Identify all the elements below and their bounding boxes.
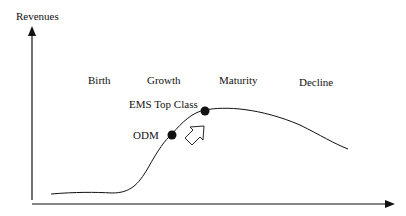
phase-label-decline: Decline	[299, 77, 333, 88]
life-cycle-diagram	[0, 0, 406, 216]
odm-marker-dot	[168, 131, 177, 140]
ems-marker-dot	[201, 107, 210, 116]
phase-label-birth: Birth	[88, 75, 111, 86]
phase-label-growth: Growth	[147, 75, 181, 86]
marker-label-odm: ODM	[133, 130, 159, 141]
phase-label-maturity: Maturity	[219, 75, 258, 86]
y-axis-label: Revenues	[16, 11, 59, 22]
marker-label-ems-top-class: EMS Top Class	[129, 99, 198, 110]
x-axis-arrowhead-icon	[385, 200, 395, 208]
hollow-arrow-icon	[185, 126, 204, 145]
life-cycle-curve	[51, 108, 348, 194]
y-axis-arrowhead-icon	[28, 26, 36, 36]
